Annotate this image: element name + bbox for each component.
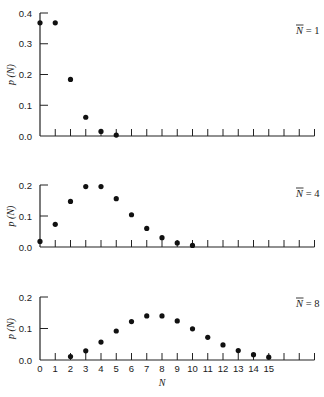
y-tick-label: 0.1	[19, 100, 32, 111]
data-point	[37, 20, 42, 25]
x-tick-label: 4	[98, 363, 103, 374]
x-tick-label: 8	[159, 363, 164, 374]
x-tick-label: 15	[263, 363, 274, 374]
data-point	[251, 352, 256, 357]
y-axis-label: p (N)	[5, 63, 17, 86]
data-point	[144, 313, 149, 318]
y-tick-label: 0.1	[19, 323, 32, 334]
data-point	[159, 235, 164, 240]
data-point	[129, 212, 134, 217]
data-point	[114, 196, 119, 201]
panel-mean-8: 0.00.10.2p (N)0123456789101112131415NN =…	[5, 292, 319, 389]
x-tick-label: 3	[83, 363, 88, 374]
y-tick-label: 0.2	[19, 69, 32, 80]
data-point	[129, 319, 134, 324]
data-point	[220, 342, 225, 347]
y-axis-label: p (N)	[5, 317, 17, 340]
x-tick-label: 10	[187, 363, 198, 374]
y-tick-label: 0.0	[19, 242, 32, 253]
mean-annotation: N = 4	[295, 188, 320, 199]
data-point	[175, 318, 180, 323]
mean-annotation: N = 8	[295, 298, 319, 309]
x-tick-label: 13	[233, 363, 244, 374]
poisson-distribution-figure: 0.00.10.20.30.4p (N)N = 10.00.10.2p (N)N…	[0, 0, 324, 397]
data-point	[190, 326, 195, 331]
data-point	[83, 115, 88, 120]
data-point	[159, 313, 164, 318]
data-point	[83, 184, 88, 189]
y-tick-label: 0.0	[19, 131, 32, 142]
data-point	[205, 335, 210, 340]
data-point	[68, 354, 73, 359]
x-tick-label: 1	[53, 363, 58, 374]
data-point	[98, 184, 103, 189]
data-point	[175, 240, 180, 245]
y-tick-label: 0.1	[19, 211, 32, 222]
data-point	[236, 348, 241, 353]
y-tick-label: 0.0	[19, 355, 32, 366]
y-tick-label: 0.2	[19, 180, 32, 191]
x-tick-label: 0	[37, 363, 42, 374]
panel-mean-4: 0.00.10.2p (N)N = 4	[5, 180, 320, 253]
data-point	[68, 199, 73, 204]
data-point	[114, 328, 119, 333]
x-tick-label: 9	[175, 363, 180, 374]
data-point	[114, 132, 119, 137]
data-point	[53, 20, 58, 25]
x-tick-label: 11	[203, 363, 213, 374]
x-tick-label: 6	[129, 363, 134, 374]
y-axis-label: p (N)	[5, 205, 17, 228]
data-point	[37, 239, 42, 244]
data-point	[68, 77, 73, 82]
data-point	[98, 129, 103, 134]
data-point	[98, 339, 103, 344]
x-tick-label: 14	[248, 363, 259, 374]
data-point	[144, 226, 149, 231]
x-tick-label: 5	[114, 363, 119, 374]
data-point	[266, 355, 271, 360]
data-point	[83, 348, 88, 353]
data-point	[53, 222, 58, 227]
x-tick-label: 2	[68, 363, 73, 374]
y-tick-label: 0.3	[19, 38, 32, 49]
y-tick-label: 0.4	[19, 8, 32, 19]
panel-mean-1: 0.00.10.20.30.4p (N)N = 1	[5, 8, 319, 142]
x-tick-label: 7	[144, 363, 149, 374]
x-tick-label: 12	[218, 363, 229, 374]
x-axis-label: N	[158, 377, 167, 388]
mean-annotation: N = 1	[295, 25, 319, 36]
y-tick-label: 0.2	[19, 292, 32, 303]
data-point	[190, 243, 195, 248]
